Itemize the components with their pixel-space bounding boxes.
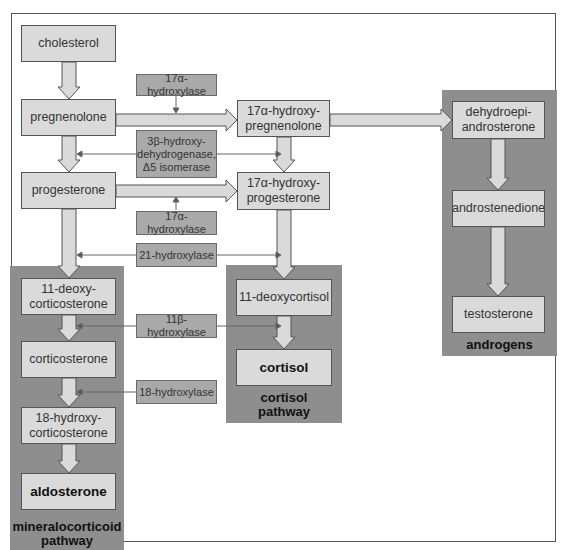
node-17a-hydroxyprogesterone-line2: progesterone: [247, 191, 321, 206]
enzyme-3b-hsd-line1: 3β-hydroxy-: [147, 135, 205, 148]
node-progesterone: progesterone: [21, 172, 116, 209]
arrow-hydroxycorticosterone-aldosterone: [58, 444, 80, 473]
node-testosterone: testosterone: [452, 296, 545, 333]
node-aldosterone-label: aldosterone: [30, 484, 107, 499]
node-11-deoxycorticosterone-line1: 11-deoxy-: [41, 282, 96, 297]
arrow-progesterone-deoxycorticosterone: [58, 209, 80, 278]
enzyme-11b-hydroxylase-label: 11β-hydroxylase: [137, 313, 216, 339]
arrow-androstenedione-testosterone: [487, 227, 509, 296]
node-androstenedione-label: androstenedione: [452, 201, 545, 216]
node-18-hydroxycorticosterone-line2: corticosterone: [29, 426, 108, 441]
enzyme-18-hydroxylase: 18-hydroxylase: [136, 380, 217, 404]
node-18-hydroxycorticosterone: 18-hydroxy- corticosterone: [21, 407, 116, 444]
enzyme-17a-hydroxylase-bottom: 17α-hydroxylase: [136, 211, 217, 235]
node-pregnenolone-label: pregnenolone: [30, 110, 106, 125]
arrow-cholesterol-pregnenolone: [58, 62, 80, 99]
node-corticosterone-label: corticosterone: [29, 352, 108, 367]
node-17a-hydroxyprogesterone: 17α-hydroxy- progesterone: [237, 172, 330, 210]
arrow-deoxycortisol-cortisol: [273, 316, 295, 349]
node-11-deoxycortisol-label: 11-deoxycortisol: [239, 290, 329, 305]
node-dhea-line2: androsterone: [462, 120, 536, 135]
node-cortisol: cortisol: [236, 349, 332, 386]
node-cholesterol-label: cholesterol: [38, 36, 98, 51]
node-progesterone-label: progesterone: [32, 183, 106, 198]
node-11-deoxycortisol: 11-deoxycortisol: [236, 279, 332, 316]
node-11-deoxycorticosterone-line2: corticosterone: [29, 297, 108, 312]
node-17a-hydroxypregnenolone-line2: pregnenolone: [245, 119, 321, 134]
enzyme-3b-hsd-line3: Δ5 isomerase: [143, 161, 210, 174]
node-testosterone-label: testosterone: [464, 307, 533, 322]
node-11-deoxycorticosterone: 11-deoxy- corticosterone: [21, 278, 116, 315]
node-17a-hydroxypregnenolone-line1: 17α-hydroxy-: [247, 104, 320, 119]
arrow-hydroxyprogesterone-deoxycortisol: [273, 210, 295, 279]
node-pregnenolone: pregnenolone: [21, 99, 116, 136]
node-corticosterone: corticosterone: [21, 341, 116, 378]
enzyme-21-hydroxylase: 21-hydroxylase: [136, 243, 217, 267]
node-18-hydroxycorticosterone-line1: 18-hydroxy-: [36, 411, 102, 426]
arrow-deoxycorticosterone-corticosterone: [58, 315, 80, 341]
node-aldosterone: aldosterone: [21, 473, 116, 510]
enzyme-11b-hydroxylase: 11β-hydroxylase: [136, 314, 217, 338]
enzyme-18-hydroxylase-label: 18-hydroxylase: [139, 386, 214, 399]
enzyme-17a-hydroxylase-bottom-label: 17α-hydroxylase: [137, 210, 216, 236]
node-androstenedione: androstenedione: [452, 190, 545, 227]
arrow-dhea-androstenedione: [487, 139, 509, 190]
node-17a-hydroxypregnenolone: 17α-hydroxy- pregnenolone: [237, 100, 330, 137]
node-cholesterol: cholesterol: [21, 25, 116, 62]
arrows-layer: [0, 0, 564, 550]
node-dhea-line1: dehydroepi-: [465, 105, 531, 120]
enzyme-17a-hydroxylase-top: 17α-hydroxylase: [136, 74, 217, 96]
arrow-corticosterone-hydroxycorticosterone: [58, 378, 80, 407]
node-17a-hydroxyprogesterone-line1: 17α-hydroxy-: [247, 176, 320, 191]
enzyme-3b-hsd: 3β-hydroxy- dehydrogenase, Δ5 isomerase: [136, 130, 217, 178]
node-cortisol-label: cortisol: [260, 360, 309, 375]
enzyme-17a-hydroxylase-top-label: 17α-hydroxylase: [137, 72, 216, 98]
arrow-hydroxypregnenolone-dhea: [330, 109, 452, 131]
node-dehydroepiandrosterone: dehydroepi- androsterone: [452, 101, 545, 139]
enzyme-21-hydroxylase-label: 21-hydroxylase: [139, 249, 214, 262]
enzyme-3b-hsd-line2: dehydrogenase,: [137, 148, 216, 161]
